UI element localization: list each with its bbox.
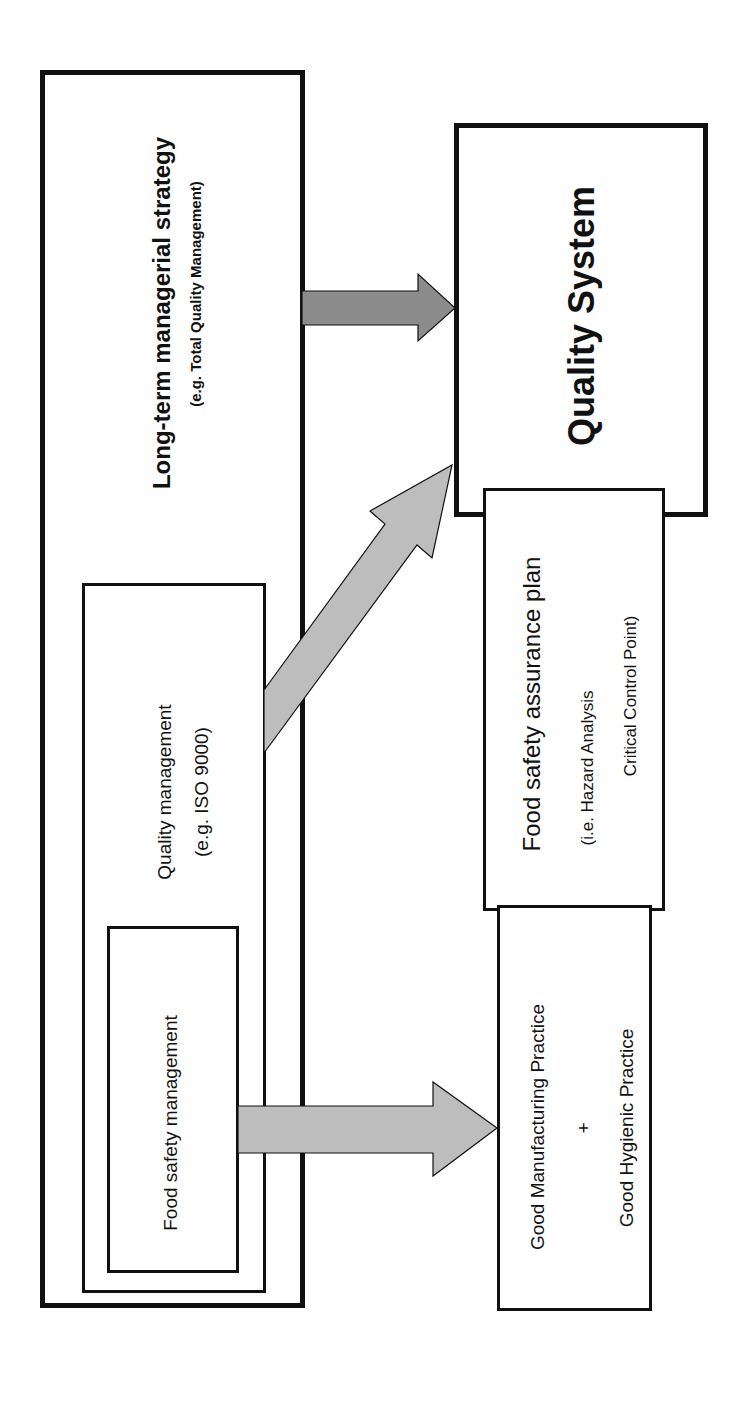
good-hygienic-practice-label: Good Hygienic Practice: [617, 1029, 636, 1228]
long-term-strategy-subtitle: (e.g. Total Quality Management): [188, 181, 203, 407]
quality-system-title: Quality System: [564, 186, 600, 446]
quality-management-subtitle: (e.g. ISO 9000): [192, 727, 211, 857]
long-term-strategy-title: Long-term managerial strategy: [150, 137, 174, 489]
food-safety-assurance-plan-title: Food safety assurance plan: [520, 557, 544, 852]
quality-management-title: Quality management: [155, 704, 174, 879]
haccp-line-1: (i.e. Hazard Analysis: [579, 691, 596, 846]
plus-sign: +: [574, 1122, 593, 1133]
haccp-line-2: Critical Control Point): [622, 616, 639, 777]
food-safety-management-title: Food safety management: [161, 1015, 180, 1230]
good-manufacturing-practice-label: Good Manufacturing Practice: [528, 1004, 547, 1250]
arrow-strategy-to-quality-system: [302, 274, 455, 341]
